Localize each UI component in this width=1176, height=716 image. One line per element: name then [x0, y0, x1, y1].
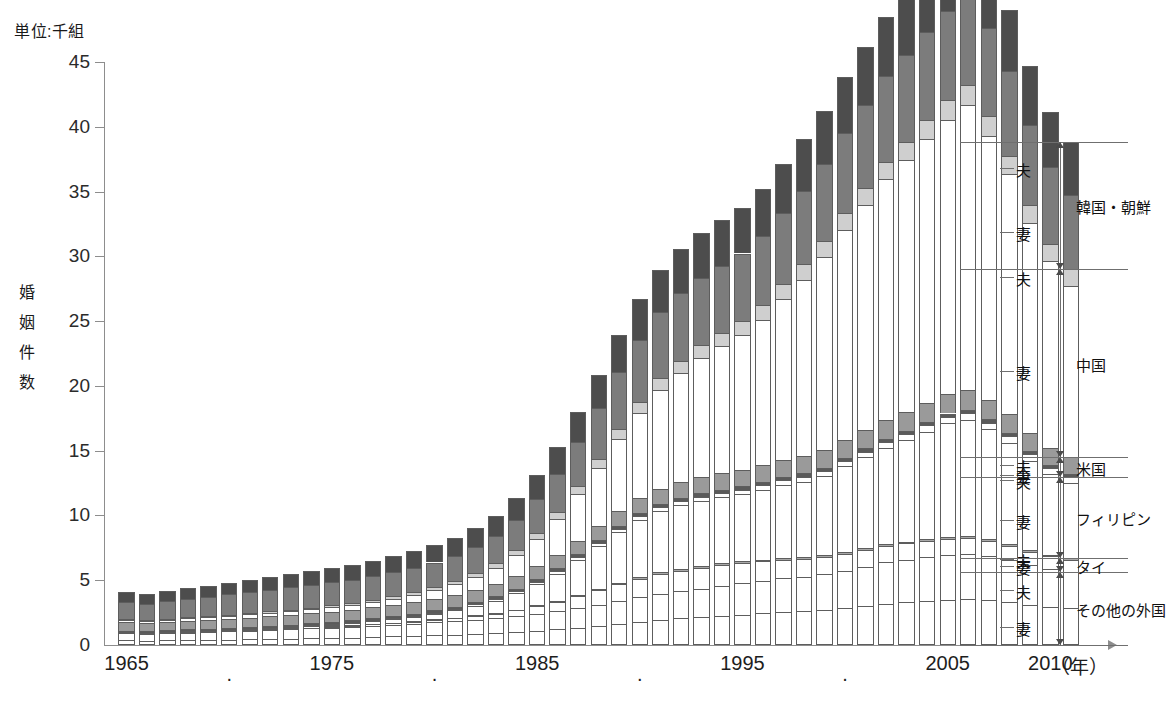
bar-segment	[673, 501, 689, 505]
bar-segment	[324, 628, 340, 638]
bar-segment	[426, 620, 442, 622]
bar-segment	[467, 547, 483, 573]
bar-segment	[837, 466, 853, 552]
bar-segment	[693, 566, 709, 568]
bar-segment	[324, 612, 340, 622]
bar-segment	[816, 450, 832, 468]
bar-segment	[611, 624, 627, 645]
bar-segment	[467, 528, 483, 547]
bar-segment	[529, 584, 545, 605]
bar-segment	[693, 497, 709, 501]
bar-segment	[570, 596, 586, 608]
bar-segment	[242, 627, 258, 629]
bar-segment	[857, 567, 873, 607]
bar-segment	[324, 568, 340, 583]
bar-segment	[242, 639, 258, 645]
bar	[283, 574, 299, 645]
bar-segment	[837, 230, 853, 440]
bar-segment	[837, 213, 853, 230]
bar	[159, 591, 175, 645]
bar	[898, 0, 914, 645]
bar-segment	[898, 440, 914, 541]
bar-segment	[344, 626, 360, 627]
bar-segment	[447, 610, 463, 617]
bar-segment	[591, 408, 607, 459]
bar-segment	[221, 631, 237, 639]
bar-segment	[632, 520, 648, 577]
bar-segment	[714, 333, 730, 346]
unit-label: 単位:千組	[14, 18, 85, 42]
bar-segment	[467, 602, 483, 605]
bar-segment	[591, 526, 607, 540]
bar-segment	[857, 550, 873, 567]
bar-segment	[324, 622, 340, 624]
legend-bracket	[1060, 457, 1061, 477]
bar-segment	[693, 345, 709, 358]
bar-segment	[775, 213, 791, 284]
bar-segment	[180, 640, 196, 645]
bar-segment	[796, 559, 812, 577]
bar-segment	[303, 623, 319, 625]
legend-category-label: 中国	[1076, 354, 1106, 375]
bar-segment	[549, 629, 565, 645]
bar-segment	[426, 590, 442, 599]
bar-segment	[118, 619, 134, 620]
bar-segment	[344, 603, 360, 605]
bar-segment	[159, 620, 175, 622]
bar-segment	[919, 557, 935, 601]
y-axis-tick-mark	[95, 580, 104, 581]
bar-segment	[447, 556, 463, 581]
bar	[673, 249, 689, 645]
bar-segment	[344, 638, 360, 646]
bar-segment	[221, 583, 237, 595]
bar-segment	[837, 461, 853, 466]
bar-segment	[816, 111, 832, 164]
bar	[426, 545, 442, 645]
bar-segment	[734, 490, 750, 495]
bar-segment	[159, 601, 175, 618]
bar-segment	[755, 561, 771, 580]
bar-segment	[385, 619, 401, 622]
bar-segment	[857, 430, 873, 448]
bar-segment	[426, 545, 442, 562]
bar	[940, 0, 956, 645]
bar-segment	[508, 576, 524, 589]
bar-segment	[159, 633, 175, 640]
bar-segment	[878, 162, 894, 180]
bar-segment	[262, 626, 278, 628]
bar-segment	[919, 120, 935, 139]
bar-segment	[406, 595, 422, 603]
bar	[180, 588, 196, 645]
bar-segment	[426, 563, 442, 587]
bar-segment	[837, 554, 853, 571]
bar-segment	[940, 423, 956, 537]
bar-segment	[796, 557, 812, 559]
bracket-arrow-down-icon	[1056, 552, 1064, 558]
bar-segment	[816, 257, 832, 450]
y-axis-tick-label: 45	[50, 51, 90, 73]
bar-segment	[632, 402, 648, 413]
bar-segment	[714, 220, 730, 265]
bar-segment	[529, 566, 545, 579]
bar-segment	[406, 551, 422, 568]
bar-segment	[632, 498, 648, 513]
bar-segment	[898, 431, 914, 434]
bar-segment	[303, 609, 319, 613]
bar-segment	[139, 634, 155, 641]
y-axis-title-char: 件	[16, 338, 38, 368]
y-axis-title-char: 婚	[16, 278, 38, 308]
bar-segment	[755, 320, 771, 465]
legend-category-label: その他の外国	[1076, 599, 1166, 620]
bar-segment	[508, 616, 524, 632]
bar-segment	[365, 600, 381, 602]
bar	[488, 516, 504, 645]
bar-segment	[447, 584, 463, 595]
bar-segment	[816, 476, 832, 555]
bar-segment	[529, 631, 545, 645]
bar-segment	[139, 623, 155, 631]
bar-segment	[673, 505, 689, 568]
bar-segment	[755, 581, 771, 613]
bar-segment	[611, 439, 627, 512]
bar-segment	[611, 335, 627, 372]
legend-bracket-rule	[960, 457, 1128, 458]
